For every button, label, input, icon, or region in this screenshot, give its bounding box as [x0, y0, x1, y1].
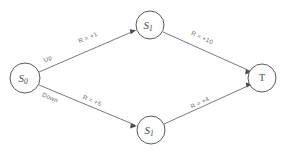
nodes-group: S0 S1 S1 T	[10, 11, 276, 144]
edge-labels-group: R = +1 R = +10 R = +5 R = +4	[77, 29, 215, 109]
node-label-s1-bottom-subscript: 1	[150, 129, 154, 138]
node-label-s0-subscript: 0	[24, 77, 28, 86]
node-s0[interactable]: S0	[10, 63, 40, 93]
edge-label-s0-s1top: R = +1	[77, 30, 98, 44]
node-label-s1-top-subscript: 1	[149, 24, 153, 33]
action-labels-group: Up Down	[41, 53, 59, 104]
node-label-t: T	[259, 72, 265, 83]
action-label-up: Up	[42, 53, 53, 63]
edge-line-s1bot-t	[164, 85, 250, 124]
arrowhead-s0-s1top	[130, 29, 136, 34]
edge-label-s1top-t: R = +10	[190, 29, 215, 45]
edge-line-s0-s1bot	[39, 85, 135, 125]
node-s1-bottom[interactable]: S1	[137, 116, 165, 144]
diagram-canvas: R = +1 R = +10 R = +5 R = +4 Up Down S0	[0, 0, 287, 153]
edges-group	[39, 29, 252, 128]
edge-s0-s1bot	[39, 85, 137, 129]
edge-s1bot-t	[164, 83, 252, 124]
edge-label-s0-s1bot: R = +5	[82, 93, 103, 107]
state-transition-diagram: R = +1 R = +10 R = +5 R = +4 Up Down S0	[0, 0, 287, 153]
node-t[interactable]: T	[248, 64, 276, 92]
node-s1-top[interactable]: S1	[136, 11, 164, 39]
